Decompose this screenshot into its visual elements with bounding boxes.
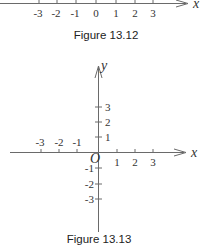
tick-label: 3 (150, 7, 156, 19)
tick-label: 3 (105, 101, 111, 113)
tick-label: -2 (85, 178, 94, 190)
tick-label: 2 (105, 116, 111, 128)
tick-labels: -3 -2 -1 0 1 2 3 (33, 7, 156, 19)
tick-label: 2 (132, 156, 138, 168)
tick-label: -3 (35, 136, 45, 148)
tick-label: 3 (150, 156, 156, 168)
tick-label: 1 (105, 131, 111, 143)
x-axis-label: x (192, 0, 200, 11)
y-tick-labels-positive: 1 2 3 (105, 101, 111, 143)
figure-caption: Figure 13.13 (67, 233, 132, 245)
tick-label: -3 (85, 193, 95, 205)
tick-label: -1 (85, 162, 94, 174)
x-axis-label: x (190, 145, 198, 160)
tick-label: 1 (113, 7, 119, 19)
tick-label: -3 (33, 7, 43, 19)
tick-label: -1 (72, 136, 81, 148)
y-tick-labels-negative: -1 -2 -3 (85, 162, 95, 205)
tick-label: -2 (54, 136, 63, 148)
tick-label: -2 (51, 7, 60, 19)
x-tick-labels-negative: -3 -2 -1 (35, 136, 81, 148)
tick-label: 0 (93, 7, 99, 19)
figures-canvas: x -3 -2 -1 0 1 2 3 Figure 13.12 (0, 0, 212, 246)
tick-label: 1 (114, 156, 120, 168)
tick-label: -1 (70, 7, 79, 19)
figure-caption: Figure 13.12 (74, 29, 139, 41)
figure-13-12-number-line: x -3 -2 -1 0 1 2 3 Figure 13.12 (0, 0, 200, 41)
x-tick-labels-positive: 1 2 3 (114, 156, 156, 168)
tick-label: 2 (132, 7, 138, 19)
figure-13-13-coordinate-plane: y x O -3 -2 -1 1 2 3 1 2 3 -1 -2 -3 Figu… (10, 58, 198, 245)
y-axis-label: y (99, 58, 108, 73)
